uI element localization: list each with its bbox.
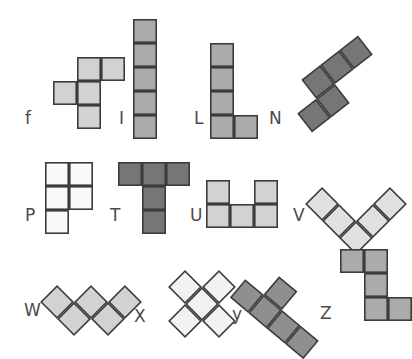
pentomino-cell <box>207 181 229 203</box>
pentomino-cell <box>207 205 229 227</box>
pentomino-cell <box>78 82 100 104</box>
pentomino-cell <box>255 205 277 227</box>
pentomino-label-X: X <box>134 308 146 325</box>
pentomino-label-f: f <box>25 110 31 127</box>
pentomino-Z <box>340 249 412 321</box>
pentomino-cell <box>211 44 233 66</box>
pentomino-label-y: y <box>232 306 242 323</box>
pentomino-cell <box>134 68 156 90</box>
pentomino-cell <box>341 250 363 272</box>
pentomino-cell <box>102 58 124 80</box>
pentomino-label-Z: Z <box>320 305 332 322</box>
pentomino-cell <box>365 250 387 272</box>
pentomino-cell <box>143 187 165 209</box>
pentomino-cell <box>231 205 253 227</box>
pentomino-cell <box>365 298 387 320</box>
pentomino-label-I: I <box>119 110 124 127</box>
pentomino-cell <box>46 187 68 209</box>
pentomino-W <box>40 251 142 353</box>
pentomino-cell <box>119 163 141 185</box>
pentomino-cell <box>78 58 100 80</box>
pentomino-T <box>118 162 190 234</box>
pentomino-cell <box>54 82 76 104</box>
pentomino-N <box>282 36 387 133</box>
pentomino-cell <box>134 44 156 66</box>
pentomino-label-W: W <box>24 302 41 319</box>
pentomino-cell <box>255 181 277 203</box>
pentomino-cell <box>365 274 387 296</box>
pentomino-I <box>133 19 157 139</box>
pentomino-cell <box>211 116 233 138</box>
pentomino-cell <box>235 116 257 138</box>
pentomino-cell <box>46 163 68 185</box>
pentomino-cell <box>134 20 156 42</box>
pentomino-label-V: V <box>293 207 305 224</box>
pentomino-y <box>230 261 334 359</box>
pentomino-L <box>210 43 258 139</box>
pentomino-f <box>53 57 125 129</box>
pentomino-cell <box>211 92 233 114</box>
pentomino-cell <box>70 163 92 185</box>
pentomino-label-T: T <box>110 207 120 224</box>
pentomino-P <box>45 162 93 234</box>
pentomino-cell <box>389 298 411 320</box>
pentomino-cell <box>167 163 189 185</box>
pentomino-cell <box>143 163 165 185</box>
pentomino-cell <box>211 68 233 90</box>
pentomino-U <box>206 180 278 228</box>
pentomino-cell <box>143 211 165 233</box>
pentomino-cell <box>46 211 68 233</box>
pentomino-cell <box>78 106 100 128</box>
pentomino-label-N: N <box>269 110 282 127</box>
pentomino-cell <box>70 187 92 209</box>
pentomino-cell <box>134 92 156 114</box>
pentomino-label-U: U <box>190 207 202 224</box>
pentomino-label-L: L <box>194 110 203 127</box>
pentomino-cell <box>134 116 156 138</box>
pentomino-label-P: P <box>25 207 35 224</box>
pentomino-V <box>305 153 407 255</box>
